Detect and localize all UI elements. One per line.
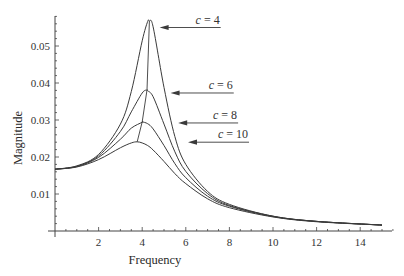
annotation-c-6: c = 6 (171, 78, 234, 96)
annotation-c-4: c = 4 (160, 13, 221, 31)
x-tick-label: 6 (183, 236, 189, 248)
x-tick-label: 2 (96, 236, 102, 248)
curve-c4 (55, 20, 382, 225)
arrow-head-icon (160, 25, 169, 30)
y-tick-label: 0.05 (31, 40, 51, 52)
x-tick-label: 10 (268, 236, 280, 248)
annotation-c-10: c = 10 (188, 127, 249, 145)
annotations: c = 4c = 6c = 8c = 10 (160, 13, 249, 145)
x-tick-label: 12 (311, 236, 322, 248)
x-axis-title: Frequency (129, 253, 183, 267)
curve-c10 (55, 142, 382, 225)
x-tick-label: 14 (355, 236, 367, 248)
annotation-label: c = 10 (218, 127, 248, 141)
arrow-head-icon (188, 140, 197, 145)
annotation-label: c = 4 (196, 13, 220, 27)
curves (55, 20, 382, 225)
y-tick-label: 0.01 (31, 188, 50, 200)
annotation-label: c = 6 (209, 78, 233, 92)
y-axis-title: Magnitude (11, 110, 25, 165)
x-tick-label: 4 (139, 236, 145, 248)
annotation-label: c = 8 (213, 108, 237, 122)
y-tick-label: 0.03 (31, 114, 51, 126)
y-tick-label: 0.04 (31, 77, 51, 89)
arrow-head-icon (171, 90, 180, 95)
axes: 24681012140.010.020.030.040.05 (31, 16, 393, 248)
arrow-head-icon (178, 120, 187, 125)
x-tick-label: 8 (227, 236, 233, 248)
magnitude-frequency-chart: 24681012140.010.020.030.040.05 c = 4c = … (0, 0, 404, 276)
annotation-c-8: c = 8 (178, 108, 238, 126)
y-tick-label: 0.02 (31, 151, 50, 163)
